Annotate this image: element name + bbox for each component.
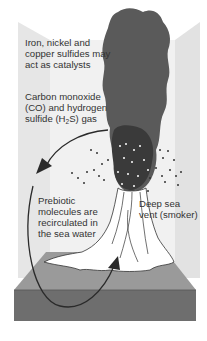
vent-line-2: vent (smoker) <box>139 209 198 220</box>
prebiotic-line-4: the sea water <box>38 228 98 239</box>
prebiotic-line-1: Prebiotic <box>38 195 98 206</box>
gas-line-2: (CO) and hydrogen <box>25 102 107 113</box>
vent-label: Deep sea vent (smoker) <box>139 198 198 220</box>
prebiotic-label: Prebiotic molecules are recirculated in … <box>38 195 98 239</box>
vent-line-1: Deep sea <box>139 198 198 209</box>
catalysts-line-1: Iron, nickel and <box>25 37 110 48</box>
gas-line-3-pre: sulfide (H <box>25 113 66 124</box>
prebiotic-line-2: molecules are <box>38 206 98 217</box>
gas-label: Carbon monoxide (CO) and hydrogen sulfid… <box>25 91 107 124</box>
catalysts-label: Iron, nickel and copper sulfides may act… <box>25 37 110 70</box>
catalysts-line-2: copper sulfides may <box>25 48 110 59</box>
catalysts-line-3: act as catalysts <box>25 59 110 70</box>
vent-diagram: Iron, nickel and copper sulfides may act… <box>0 0 207 341</box>
gas-line-3: sulfide (H2S) gas <box>25 113 107 124</box>
prebiotic-line-3: recirculated in <box>38 217 98 228</box>
gas-line-1: Carbon monoxide <box>25 91 107 102</box>
gas-line-3-post: S) gas <box>69 113 97 124</box>
